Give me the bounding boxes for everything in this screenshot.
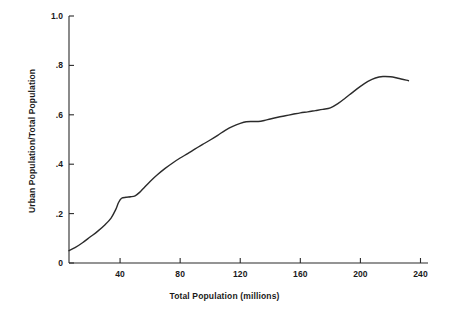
- data-series-line: [69, 76, 408, 250]
- x-tick-label: 120: [220, 269, 260, 279]
- chart-container: 0.2.4.6.81.0 4080120160200240 Urban Popu…: [0, 0, 449, 314]
- y-tick-label: 1.0: [21, 11, 63, 21]
- x-tick-label: 240: [400, 269, 440, 279]
- x-axis-ticks: [120, 258, 420, 263]
- x-tick-label: 160: [280, 269, 320, 279]
- x-tick-label: 200: [340, 269, 380, 279]
- y-axis-ticks: [69, 16, 74, 263]
- x-tick-label: 80: [160, 269, 200, 279]
- x-axis-title: Total Population (millions): [0, 291, 449, 301]
- y-axis-title: Urban Population/Total Population: [27, 69, 37, 213]
- x-tick-label: 40: [100, 269, 140, 279]
- axis-lines: [69, 16, 428, 263]
- y-tick-label: 0: [21, 258, 63, 268]
- plot-area: [0, 0, 449, 314]
